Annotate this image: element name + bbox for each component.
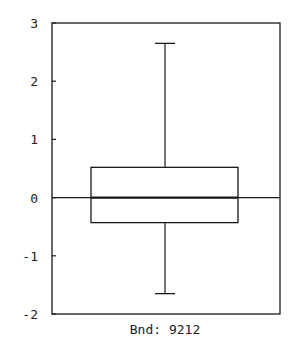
box-plot-chart: 3210-1-2 Bnd: 9212 [0, 0, 296, 346]
y-tick-label: -1 [22, 249, 38, 264]
y-tick-label: -2 [22, 307, 38, 322]
y-axis: 3210-1-2 [22, 16, 56, 322]
box-plot [91, 43, 238, 293]
y-tick-label: 2 [30, 74, 38, 89]
x-axis-label: Bnd: 9212 [130, 322, 200, 337]
plot-frame [52, 23, 280, 314]
y-tick-label: 0 [30, 191, 38, 206]
y-tick-label: 1 [30, 132, 38, 147]
interquartile-box [91, 167, 238, 222]
y-tick-label: 3 [30, 16, 38, 31]
